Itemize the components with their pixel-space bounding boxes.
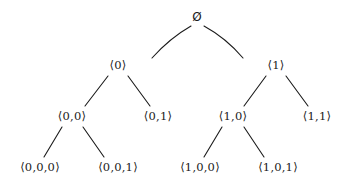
tree-edge-n10-to-n101 [244, 127, 264, 157]
tree-edge-root-to-n0 [152, 26, 191, 58]
binary-sequence-tree-figure: Ø⟨0⟩⟨1⟩⟨0,0⟩⟨0,1⟩⟨1,0⟩⟨1,1⟩⟨0,0,0⟩⟨0,0,1… [0, 0, 349, 189]
tree-edge-n1-to-n10 [244, 76, 266, 106]
tree-edge-root-to-n1 [204, 26, 243, 58]
tree-edge-n0-to-n00 [85, 76, 108, 106]
tree-node-n11: ⟨1,1⟩ [303, 111, 331, 123]
tree-edge-n0-to-n01 [128, 76, 150, 106]
tree-node-n0: ⟨0⟩ [110, 60, 127, 72]
tree-edge-n00-to-n001 [83, 127, 104, 157]
tree-edge-n1-to-n11 [286, 76, 308, 106]
tree-node-n001: ⟨0,0,1⟩ [98, 162, 138, 174]
tree-node-n10: ⟨1,0⟩ [219, 111, 247, 123]
tree-node-n1: ⟨1⟩ [268, 60, 285, 72]
tree-node-n100: ⟨1,0,0⟩ [180, 162, 220, 174]
tree-edge-n00-to-n000 [44, 127, 62, 157]
tree-node-root: Ø [192, 11, 202, 23]
tree-node-n01: ⟨0,1⟩ [144, 111, 172, 123]
tree-node-n00: ⟨0,0⟩ [58, 111, 86, 123]
tree-edge-n10-to-n100 [204, 127, 222, 157]
tree-node-n101: ⟨1,0,1⟩ [258, 162, 298, 174]
tree-node-n000: ⟨0,0,0⟩ [20, 162, 60, 174]
